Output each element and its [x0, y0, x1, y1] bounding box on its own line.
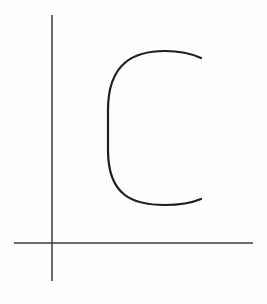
c-shape-curve: [108, 51, 201, 205]
diagram-canvas: [0, 0, 267, 304]
diagram-svg: [0, 0, 267, 304]
